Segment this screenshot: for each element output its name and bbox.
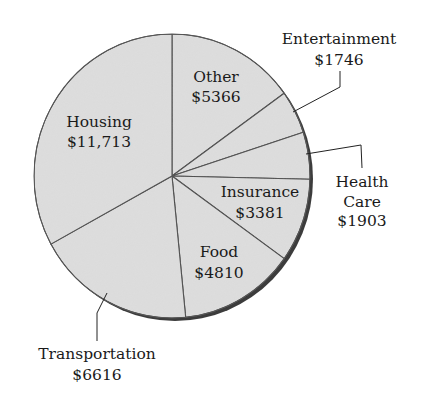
slice-value: $4810 — [194, 264, 243, 282]
label-transportation: Transportation $6616 — [38, 345, 156, 384]
slice-label: Food — [200, 243, 239, 261]
slice-value: $6616 — [72, 366, 121, 384]
slice-value: $5366 — [191, 88, 240, 106]
slice-value: $3381 — [235, 204, 284, 222]
slice-value: $11,713 — [67, 133, 131, 151]
slice-label: Housing — [66, 113, 132, 131]
pie-slices — [34, 34, 310, 318]
slice-label: Entertainment — [282, 30, 397, 48]
entertainment-leader-line — [293, 71, 340, 112]
slice-label-line1: Health — [335, 173, 388, 191]
label-health-care: Health Care $1903 — [335, 173, 388, 230]
label-entertainment: Entertainment $1746 — [282, 30, 397, 69]
slice-label: Other — [193, 68, 239, 86]
slice-label: Insurance — [221, 183, 300, 201]
slice-label: Transportation — [38, 345, 156, 363]
pie-chart: Other $5366 Entertainment $1746 Health C… — [0, 0, 423, 395]
health-care-leader-line — [306, 145, 362, 168]
slice-label-line2: Care — [343, 193, 381, 211]
slice-value: $1903 — [337, 212, 386, 230]
slice-value: $1746 — [314, 51, 363, 69]
